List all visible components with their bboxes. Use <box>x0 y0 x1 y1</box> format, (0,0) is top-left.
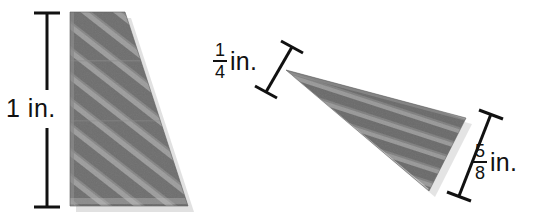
figure-container: 1 in. 1 4 in. 5 8 in. <box>0 0 546 220</box>
fraction-five-eighths: 5 8 <box>473 142 487 183</box>
quarter-inch-unit: in. <box>230 49 257 74</box>
left-trapezoid-shape <box>60 5 200 215</box>
fraction-numerator: 1 <box>213 41 227 60</box>
height-dimension-label: 1 in. <box>6 96 56 121</box>
fraction-denominator: 4 <box>213 62 227 81</box>
fiveeighth-inch-unit: in. <box>490 150 517 175</box>
fraction-numerator: 5 <box>473 142 487 161</box>
fraction-denominator: 8 <box>473 163 487 182</box>
right-wedge-shape <box>275 60 480 205</box>
quarter-inch-dimension-label: 1 4 in. <box>213 41 257 82</box>
fiveeighth-inch-dimension-label: 5 8 in. <box>473 142 517 183</box>
fraction-one-quarter: 1 4 <box>213 41 227 82</box>
height-dimension-value: 1 in. <box>6 94 56 122</box>
figure-graphic <box>0 0 546 220</box>
quarter-inch-dimension-line <box>255 41 303 98</box>
